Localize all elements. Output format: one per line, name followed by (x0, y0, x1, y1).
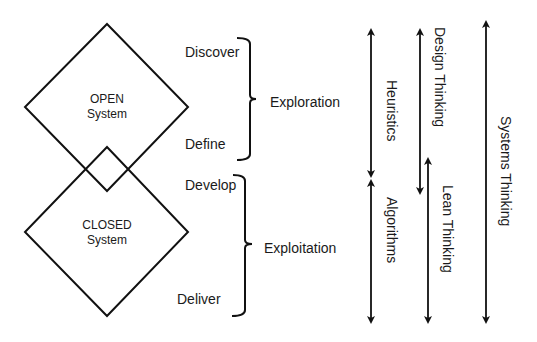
open-system-line1: OPEN (57, 92, 157, 107)
label-lean-thinking: Lean Thinking (440, 185, 456, 273)
label-heuristics: Heuristics (384, 80, 400, 141)
diagram-canvas (0, 0, 537, 342)
phase-deliver: Deliver (177, 291, 221, 307)
closed-system-line2: System (57, 233, 157, 248)
exploration-brace (237, 38, 256, 160)
open-system-label: OPEN System (57, 92, 157, 122)
group-exploitation: Exploitation (264, 240, 336, 256)
closed-system-label: CLOSED System (57, 218, 157, 248)
open-system-line2: System (57, 107, 157, 122)
label-systems-thinking: Systems Thinking (498, 116, 514, 226)
exploitation-brace (232, 175, 252, 316)
label-algorithms: Algorithms (384, 197, 400, 263)
group-exploration: Exploration (270, 94, 340, 110)
closed-system-line1: CLOSED (57, 218, 157, 233)
phase-develop: Develop (185, 177, 236, 193)
phase-define: Define (185, 136, 225, 152)
phase-discover: Discover (185, 44, 239, 60)
label-design-thinking: Design Thinking (432, 27, 448, 127)
